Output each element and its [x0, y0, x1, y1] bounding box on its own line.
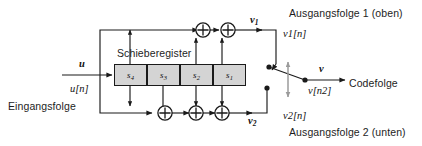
code-symbol-label: v	[319, 64, 324, 75]
v2-symbol-label: v2	[248, 116, 256, 127]
register-cell-s2-label: s2	[193, 70, 200, 80]
v1-sequence-label: v1[n]	[283, 29, 306, 40]
input-sequence-label: u[n]	[70, 84, 89, 95]
register-cell-s3-label: s3	[160, 70, 167, 80]
adder-top-2	[221, 23, 235, 37]
register-cell-s1-label: s1	[226, 70, 233, 80]
register-cell-s1: s1	[213, 64, 246, 86]
commutator-switch	[269, 67, 345, 80]
code-caption: Codefolge	[349, 78, 398, 89]
input-caption: Eingangsfolge	[8, 101, 76, 112]
adder-bottom-1	[158, 106, 172, 120]
shift-register-title: Schieberegister	[117, 48, 191, 59]
figure-canvas: s4 s3 s2 s1 Schieberegister u u[n] Einga…	[0, 0, 422, 146]
v1-output-wire	[256, 30, 276, 70]
output1-caption: Ausgangsfolge 1 (oben)	[289, 8, 403, 19]
commutator-pivot-dot	[266, 64, 271, 69]
commutator-contact-dot	[302, 77, 307, 82]
v1-symbol-label: v1	[250, 15, 258, 26]
v2-node-dot	[264, 85, 269, 90]
junction-dots	[264, 64, 307, 90]
register-cell-s3: s3	[147, 64, 180, 86]
v2-sequence-label: v2[n]	[283, 111, 306, 122]
adder-top-1	[196, 23, 210, 37]
code-sequence-label: v[n2]	[308, 86, 331, 97]
adder-bottom-2	[189, 106, 203, 120]
register-cell-s4-label: s4	[127, 70, 134, 80]
output2-caption: Ausgangsfolge 2 (unten)	[289, 127, 406, 138]
v2-output-wire	[247, 88, 267, 113]
adder-bottom-3	[215, 106, 229, 120]
bottom-tap-wires	[130, 86, 222, 113]
input-symbol-label: u	[79, 59, 85, 70]
register-cell-s4: s4	[114, 64, 147, 86]
register-cell-s2: s2	[180, 64, 213, 86]
